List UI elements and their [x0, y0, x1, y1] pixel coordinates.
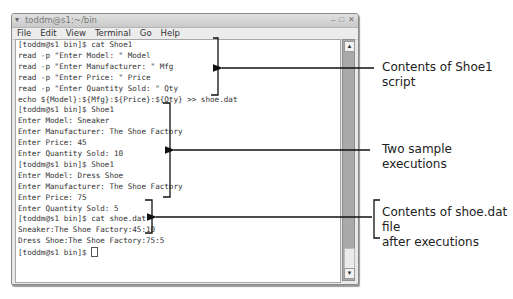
window-menu-icon[interactable]: ▾ [15, 15, 19, 24]
terminal-line: read -p "Enter Manufacturer: " Mfg [18, 62, 173, 72]
terminal-line: [toddm@s1 bin]$ Shoe1 [18, 105, 114, 115]
terminal-line: echo ${Model}:${Mfg}:${Price}:${Qty} >> … [18, 95, 237, 105]
menu-go[interactable]: Go [140, 28, 152, 39]
title-bar[interactable]: ▾ toddm@s1:~/bin – □ ✕ [12, 14, 358, 28]
menu-help[interactable]: Help [161, 28, 180, 39]
terminal-line: [toddm@s1 bin]$ cat Shoe1 [18, 40, 132, 50]
menu-edit[interactable]: Edit [40, 28, 56, 39]
terminal-line: Enter Quantity Sold: 5 [18, 204, 119, 214]
terminal-line: Enter Manufacturer: The Shoe Factory [18, 127, 183, 137]
terminal-line: [toddm@s1 bin]$ cat shoe.dat [18, 214, 146, 224]
scroll-up-arrow-icon[interactable]: ▲ [344, 41, 355, 52]
minimize-icon[interactable]: – [331, 15, 335, 24]
terminal-line: read -p "Enter Quantity Sold: " Qty [18, 84, 178, 94]
callout-shoe-dat-line1: Contents of shoe.dat file [382, 205, 513, 235]
window-title: toddm@s1:~/bin [25, 15, 97, 25]
terminal-output[interactable]: [toddm@s1 bin]$ cat Shoe1 read -p "Enter… [15, 39, 341, 283]
text-cursor [91, 247, 98, 257]
vertical-scrollbar[interactable]: ▲ ▼ [342, 39, 355, 281]
scroll-thumb[interactable] [344, 248, 355, 270]
terminal-line: Enter Price: 45 [18, 138, 87, 148]
terminal-line: Enter Quantity Sold: 10 [18, 149, 123, 159]
maximize-icon[interactable]: □ [339, 15, 344, 24]
terminal-line: Enter Price: 75 [18, 193, 87, 203]
callout-script: Contents of Shoe1 script [382, 60, 513, 90]
terminal-window: ▾ toddm@s1:~/bin – □ ✕ File Edit View Te… [11, 13, 359, 285]
terminal-line: read -p "Enter Model: " Model [18, 51, 151, 61]
callout-shoe-dat: Contents of shoe.dat file after executio… [382, 205, 513, 250]
menu-view[interactable]: View [66, 28, 86, 39]
terminal-line: [toddm@s1 bin]$ Shoe1 [18, 160, 114, 170]
callout-bracket [374, 200, 380, 238]
callout-shoe-dat-line2: after executions [382, 235, 513, 250]
prompt-text: [toddm@s1 bin]$ [18, 248, 91, 257]
menu-terminal[interactable]: Terminal [95, 28, 131, 39]
terminal-line: Enter Model: Dress Shoe [18, 171, 123, 181]
close-icon[interactable]: ✕ [348, 15, 355, 24]
menu-file[interactable]: File [17, 28, 31, 39]
window-controls: – □ ✕ [331, 15, 355, 24]
terminal-prompt-line[interactable]: [toddm@s1 bin]$ [18, 247, 98, 258]
terminal-line: Enter Model: Sneaker [18, 116, 109, 126]
terminal-line: Enter Manufacturer: The Shoe Factory [18, 182, 183, 192]
terminal-line: Sneaker:The Shoe Factory:45:10 [18, 225, 155, 235]
callout-executions: Two sample executions [382, 142, 513, 172]
terminal-line: read -p "Enter Price: " Price [18, 73, 151, 83]
terminal-line: Dress Shoe:The Shoe Factory:75:5 [18, 236, 164, 246]
scroll-down-arrow-icon[interactable]: ▼ [344, 268, 355, 279]
